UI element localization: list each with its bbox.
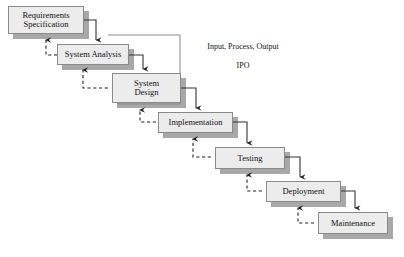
flow-requirements-to-analysis [84, 20, 96, 40]
waterfall-model-diagram: Requirements Specification System Analys… [0, 0, 404, 257]
stage-system-design[interactable]: System Design [112, 73, 181, 103]
stage-label: System Analysis [62, 50, 124, 59]
stage-requirements-specification[interactable]: Requirements Specification [8, 6, 84, 34]
flow-testing-to-deployment [285, 157, 300, 177]
stage-system-analysis[interactable]: System Analysis [57, 44, 129, 65]
stage-label: Implementation [166, 118, 226, 127]
ipo-annotation-line2: IPO [237, 61, 250, 70]
ipo-annotation: Input, Process, Output IPO [188, 33, 298, 70]
stage-maintenance[interactable]: Maintenance [318, 212, 388, 234]
feedback-design-to-analysis [83, 70, 108, 88]
stage-testing[interactable]: Testing [215, 147, 285, 169]
stage-implementation[interactable]: Implementation [158, 112, 233, 133]
flow-implementation-to-testing [233, 122, 247, 143]
feedback-maintenance-to-deployment [298, 208, 314, 223]
ipo-annotation-line1: Input, Process, Output [207, 42, 279, 51]
feedback-deployment-to-testing [247, 175, 262, 191]
flow-deployment-to-maintenance [341, 191, 355, 208]
stage-label: Testing [235, 154, 266, 163]
stage-label: Requirements Specification [19, 11, 72, 29]
flow-analysis-to-design [129, 55, 143, 69]
stage-label: System Design [131, 79, 162, 97]
feedback-implementation-to-design [140, 110, 156, 122]
flow-design-to-implementation [181, 88, 196, 108]
stage-label: Maintenance [328, 219, 378, 228]
feedback-testing-to-implementation [193, 139, 211, 157]
stage-deployment[interactable]: Deployment [266, 181, 341, 202]
stage-label: Deployment [279, 187, 327, 196]
